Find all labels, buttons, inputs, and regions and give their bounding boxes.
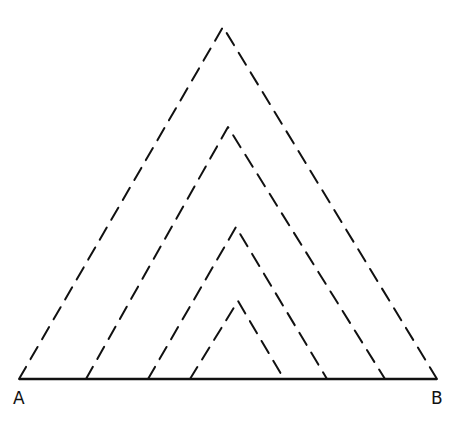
triangle-outer	[19, 27, 437, 379]
triangle-inner	[190, 301, 284, 379]
triangle-third	[148, 227, 327, 379]
label-b: B	[431, 390, 443, 407]
dashed-triangles	[19, 27, 437, 379]
label-a: A	[13, 390, 25, 407]
nested-triangles-diagram	[0, 0, 460, 429]
triangle-second	[86, 127, 385, 379]
